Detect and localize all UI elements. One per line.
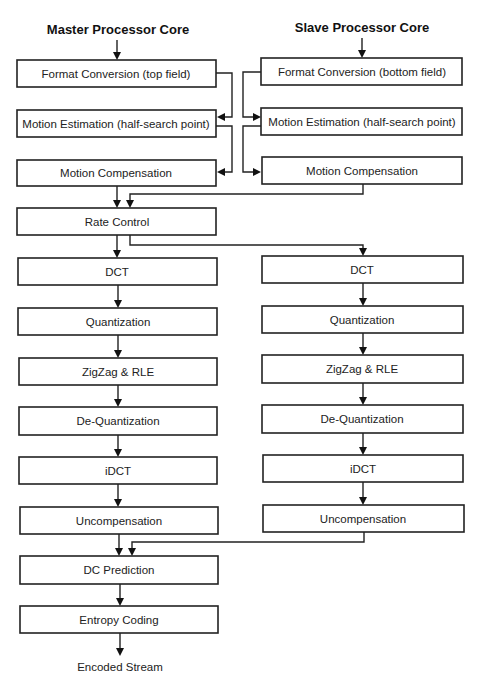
- slave-motion-compensation-box: Motion Compensation: [262, 157, 462, 184]
- master-uncompensation-box: Uncompensation: [20, 507, 218, 534]
- slave-core-title: Slave Processor Core: [295, 20, 429, 35]
- master-dct-box: DCT: [18, 258, 217, 285]
- arrow-down-icon: [359, 397, 367, 405]
- edge-slave-fc-to-slave-me: [243, 72, 261, 117]
- slave-quantization-box: Quantization: [262, 306, 463, 333]
- slave-dct-box: DCT: [262, 256, 463, 283]
- arrow-down-icon: [114, 499, 122, 507]
- master-quantization-label: Quantization: [86, 316, 151, 328]
- rate-control-label: Rate Control: [85, 216, 150, 228]
- arrow-down-icon: [359, 497, 367, 505]
- edge-rate-control-to-slave-dct: [130, 235, 363, 251]
- slave-quantization-label: Quantization: [330, 314, 395, 326]
- master-core-title: Master Processor Core: [47, 22, 189, 37]
- master-format-conversion-label: Format Conversion (top field): [42, 68, 191, 80]
- arrow-down-icon: [113, 200, 121, 208]
- master-de-quantization-label: De-Quantization: [76, 415, 159, 427]
- master-idct-label: iDCT: [105, 465, 131, 477]
- slave-motion-estimation-box: Motion Estimation (half-search point): [261, 108, 462, 135]
- arrow-down-icon: [128, 548, 136, 556]
- arrow-down-icon: [358, 50, 366, 58]
- dc-prediction-box: DC Prediction: [20, 556, 218, 584]
- edge-master-me-to-master-mc: [216, 126, 232, 172]
- edge-slave-uncomp-to-dc-prediction: [132, 532, 364, 551]
- arrow-down-icon: [114, 300, 122, 308]
- arrow-down-icon: [114, 449, 122, 457]
- arrow-down-icon: [114, 350, 122, 358]
- slave-idct-label: iDCT: [350, 463, 376, 475]
- arrow-left-icon: [217, 168, 225, 176]
- rate-control-box: Rate Control: [17, 208, 216, 235]
- slave-format-conversion-label: Format Conversion (bottom field): [278, 66, 446, 78]
- slave-de-quantization-label: De-Quantization: [320, 413, 403, 425]
- arrow-left-icon: [217, 113, 225, 121]
- master-dct-label: DCT: [105, 266, 129, 278]
- master-de-quantization-box: De-Quantization: [19, 407, 217, 435]
- slave-uncompensation-label: Uncompensation: [320, 513, 406, 525]
- master-motion-compensation-box: Motion Compensation: [17, 160, 216, 186]
- arrow-down-icon: [116, 648, 124, 656]
- master-quantization-box: Quantization: [18, 308, 217, 335]
- arrow-down-icon: [359, 248, 367, 256]
- master-uncompensation-label: Uncompensation: [76, 515, 162, 527]
- master-motion-estimation-box: Motion Estimation (half-search point): [17, 110, 216, 137]
- slave-dct-label: DCT: [350, 264, 374, 276]
- edge-slave-mc-to-rate-control: [130, 184, 363, 203]
- encoder-flow-diagram: Master Processor Core Slave Processor Co…: [0, 0, 480, 685]
- master-motion-compensation-label: Motion Compensation: [60, 167, 172, 179]
- master-format-conversion-box: Format Conversion (top field): [17, 60, 216, 87]
- master-zigzag-rle-box: ZigZag & RLE: [19, 358, 217, 385]
- arrow-down-icon: [113, 250, 121, 258]
- master-motion-estimation-label: Motion Estimation (half-search point): [22, 118, 209, 130]
- entropy-coding-box: Entropy Coding: [20, 606, 218, 633]
- slave-uncompensation-box: Uncompensation: [263, 505, 464, 532]
- slave-zigzag-rle-box: ZigZag & RLE: [262, 355, 463, 383]
- slave-de-quantization-box: De-Quantization: [262, 405, 463, 433]
- encoded-stream-label: Encoded Stream: [77, 661, 163, 673]
- slave-idct-box: iDCT: [263, 455, 463, 482]
- arrow-right-icon: [253, 113, 261, 121]
- master-idct-box: iDCT: [19, 457, 217, 484]
- arrow-down-icon: [359, 347, 367, 355]
- slave-motion-compensation-label: Motion Compensation: [306, 165, 418, 177]
- dc-prediction-label: DC Prediction: [84, 564, 155, 576]
- edge-slave-me-to-slave-mc: [243, 126, 261, 172]
- slave-zigzag-rle-label: ZigZag & RLE: [326, 363, 399, 375]
- master-zigzag-rle-label: ZigZag & RLE: [82, 366, 155, 378]
- arrow-down-icon: [115, 548, 123, 556]
- arrow-down-icon: [113, 52, 121, 60]
- edge-master-fc-to-master-me: [216, 73, 232, 117]
- arrow-down-icon: [359, 298, 367, 306]
- master-column: Format Conversion (top field) Motion Est…: [17, 60, 218, 673]
- arrow-down-icon: [116, 598, 124, 606]
- arrow-right-icon: [253, 168, 261, 176]
- entropy-coding-label: Entropy Coding: [79, 614, 158, 626]
- arrow-down-icon: [359, 447, 367, 455]
- slave-format-conversion-box: Format Conversion (bottom field): [261, 58, 462, 85]
- slave-motion-estimation-label: Motion Estimation (half-search point): [268, 116, 455, 128]
- arrow-down-icon: [114, 399, 122, 407]
- arrow-down-icon: [126, 200, 134, 208]
